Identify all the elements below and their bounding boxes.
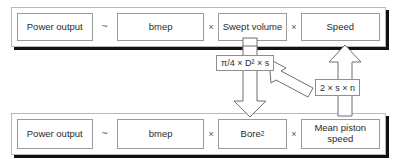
swept-volume-formula-chip: π/4 × D² × s [216,55,274,71]
top-operator-times-2: × [287,22,300,32]
top-term-bmep: bmep [117,13,204,41]
bore-label: Bore [241,129,261,140]
bottom-equation-row: Power output ~ bmep × Bore2 × Mean pisto… [12,114,385,154]
bottom-equation-band: Power output ~ bmep × Bore2 × Mean pisto… [11,113,386,155]
bottom-term-mean-piston-speed: Mean piston speed [301,119,381,149]
top-equation-band: Power output ~ bmep × Swept volume × Spe… [11,7,386,47]
top-term-swept-volume: Swept volume [218,13,288,41]
bottom-operator-times-2: × [287,129,300,139]
top-operator-times-1: × [204,22,217,32]
diagram-canvas: Power output ~ bmep × Swept volume × Spe… [0,0,399,164]
bottom-term-bore-squared: Bore2 [218,119,288,149]
bottom-operator-times-1: × [204,129,217,139]
top-term-speed: Speed [301,13,381,41]
top-term-power-output: Power output [17,13,93,41]
bottom-term-bmep: bmep [117,119,204,149]
bottom-operator-proportional: ~ [93,127,117,139]
bottom-term-power-output: Power output [17,119,93,149]
top-operator-proportional: ~ [93,20,117,32]
callout-arrow [269,59,313,97]
top-equation-row: Power output ~ bmep × Swept volume × Spe… [12,8,385,46]
speed-formula-chip: 2 × s × n [315,79,360,96]
